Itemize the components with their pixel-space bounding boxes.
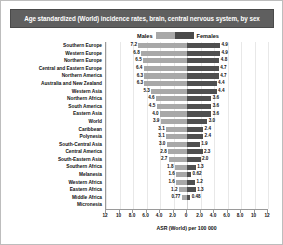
page-title: Age standardized (World) incidence rates… <box>24 15 260 22</box>
bar-value-male: 6.4 <box>136 65 142 72</box>
x-tick-label: 12 <box>264 213 269 218</box>
bar-male <box>167 142 187 147</box>
bar-male <box>176 180 187 185</box>
category-label: Southern Africa <box>9 163 102 170</box>
bar-value-male: 1.6 <box>168 171 174 178</box>
bar-value-female: 1.3 <box>197 187 203 194</box>
x-tick-label: 6.0 <box>142 213 149 218</box>
bar-value-female: 3.0 <box>209 118 215 125</box>
bar-female <box>187 51 220 56</box>
table-row: 3.12.4 <box>106 126 268 133</box>
bar-value-female: 2.4 <box>205 133 211 140</box>
table-row: 1.21.3 <box>106 186 268 193</box>
table-row: 2.82.3 <box>106 148 268 155</box>
bar-value-female: 4.7 <box>220 65 226 72</box>
bar-male <box>160 111 187 116</box>
bar-male <box>157 104 187 109</box>
bar-female <box>187 157 201 162</box>
bar-value-female: 2.3 <box>204 149 210 156</box>
bar-female <box>187 134 203 139</box>
bar-value-male: 1.6 <box>168 179 174 186</box>
bar-value-male: 6.8 <box>133 50 139 57</box>
bar-female <box>187 58 219 63</box>
bar-female <box>187 142 200 147</box>
category-label: Middle Africa <box>9 194 102 201</box>
bar-value-male: 6.3 <box>137 80 143 87</box>
bar-female <box>187 165 196 170</box>
table-row: 6.34.4 <box>106 80 268 87</box>
category-label: Western Europe <box>9 50 102 57</box>
bar-male <box>176 172 187 177</box>
bar-value-male: 1.2 <box>171 187 177 194</box>
category-label: Melanesia <box>9 171 102 178</box>
bar-value-male: 7.2 <box>131 42 137 49</box>
bar-value-female: 0.48 <box>192 194 201 201</box>
bar-value-male: 2.8 <box>160 149 166 156</box>
category-axis-labels: Southern EuropeWestern EuropeNorthern Eu… <box>9 42 102 210</box>
legend-label-males: Males <box>137 33 153 39</box>
bar-male <box>138 43 187 48</box>
bar-value-male: 4.5 <box>149 103 155 110</box>
bar-value-female: 4.7 <box>220 73 226 80</box>
bar-male <box>144 66 187 71</box>
bar-value-female: 1.3 <box>197 164 203 171</box>
bar-value-male: 6.3 <box>137 73 143 80</box>
category-label: Central America <box>9 148 102 155</box>
bar-male <box>156 96 187 101</box>
bar-male <box>151 89 187 94</box>
table-row: 4.03.6 <box>106 110 268 117</box>
x-tick-label: 2.0 <box>196 213 203 218</box>
category-label: South-Central Asia <box>9 141 102 148</box>
bar-female <box>187 127 203 132</box>
bar-value-male: 4.0 <box>152 111 158 118</box>
category-label: Southern Europe <box>9 42 102 49</box>
bar-value-female: 4.4 <box>218 80 224 87</box>
table-row: 4.53.6 <box>106 103 268 110</box>
bar-value-female: 3.6 <box>213 103 219 110</box>
table-row: 3.01.9 <box>106 141 268 148</box>
bar-female <box>187 96 211 101</box>
bar-rows: 7.24.96.84.96.54.86.44.76.34.76.34.45.34… <box>106 42 268 209</box>
bar-value-female: 4.4 <box>218 88 224 95</box>
bar-female <box>187 89 217 94</box>
bar-male <box>166 134 187 139</box>
table-row: 3.12.4 <box>106 133 268 140</box>
bar-value-male: 5.3 <box>143 88 149 95</box>
bar-male <box>166 127 187 132</box>
bar-value-male: 6.5 <box>135 57 141 64</box>
bar-value-male: 1.8 <box>167 164 173 171</box>
table-row: 6.84.9 <box>106 50 268 57</box>
category-label: South-Eastern Asia <box>9 156 102 163</box>
bar-value-female: 3.6 <box>213 111 219 118</box>
table-row: 6.34.7 <box>106 72 268 79</box>
bar-male <box>143 58 187 63</box>
chart-figure: Age standardized (World) incidence rates… <box>0 0 283 245</box>
bar-value-male: 2.7 <box>161 156 167 163</box>
bar-value-male: 4.6 <box>148 95 154 102</box>
table-row: 6.44.7 <box>106 65 268 72</box>
x-tick-label: 8.0 <box>129 213 136 218</box>
bar-value-female: 1.2 <box>197 179 203 186</box>
bar-value-male: 3.0 <box>159 141 165 148</box>
bar-female <box>187 43 220 48</box>
bar-value-female: 4.9 <box>221 42 227 49</box>
category-label: World <box>9 118 102 125</box>
x-tick-label: 6.0 <box>223 213 230 218</box>
table-row <box>106 201 268 208</box>
bar-male <box>179 187 187 192</box>
table-row: 1.60.62 <box>106 171 268 178</box>
x-tick-label: 8.0 <box>237 213 244 218</box>
bar-female <box>187 104 211 109</box>
category-label: Central and Eastern Europe <box>9 65 102 72</box>
category-label: South America <box>9 103 102 110</box>
bar-female <box>187 119 207 124</box>
category-label: Polynesia <box>9 133 102 140</box>
chart-legend: Males Females <box>137 31 219 40</box>
bar-male <box>169 157 187 162</box>
bar-male <box>161 119 187 124</box>
chart-title-bar: Age standardized (World) incidence rates… <box>10 9 274 28</box>
plot-area: 7.24.96.84.96.54.86.44.76.34.76.34.45.34… <box>105 42 268 210</box>
bar-male <box>175 165 187 170</box>
x-tick-label: 10 <box>251 213 256 218</box>
bar-value-female: 0.62 <box>193 171 202 178</box>
